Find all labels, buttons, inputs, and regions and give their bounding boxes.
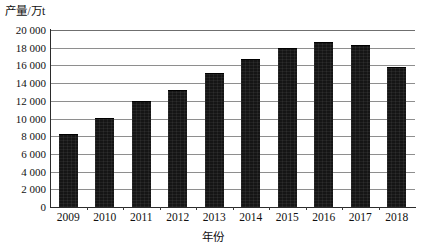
y-axis-tick-label: 14 000 <box>16 77 46 89</box>
bar <box>351 45 370 207</box>
x-axis-title: 年份 <box>0 228 427 244</box>
plot-area <box>50 30 415 207</box>
x-axis-tick <box>379 207 380 210</box>
x-axis-tick <box>233 207 234 210</box>
x-axis-tick-label: 2010 <box>93 211 116 223</box>
y-axis-tick-label: 4 000 <box>21 166 46 178</box>
x-axis-tick <box>269 207 270 210</box>
bar <box>132 101 151 207</box>
y-axis-tick-label: 0 <box>41 201 47 213</box>
bar-chart-figure: 产量/万t 02 0004 0006 0008 00010 00012 0001… <box>0 0 427 250</box>
bar <box>241 59 260 207</box>
y-axis-tick-label: 12 000 <box>16 95 46 107</box>
x-axis-tick <box>87 207 88 210</box>
x-axis-tick <box>196 207 197 210</box>
x-axis-tick-label: 2012 <box>166 211 189 223</box>
x-axis-tick <box>160 207 161 210</box>
x-axis-tick-label: 2013 <box>203 211 226 223</box>
x-axis-tick <box>123 207 124 210</box>
y-axis-tick-label: 10 000 <box>16 113 46 125</box>
x-axis-tick-label: 2018 <box>385 211 408 223</box>
y-axis-line <box>50 29 51 208</box>
bar <box>95 118 114 207</box>
bar <box>59 134 78 207</box>
x-axis-tick <box>306 207 307 210</box>
y-axis-tick-label: 20 000 <box>16 24 46 36</box>
x-axis-tick-label: 2015 <box>276 211 299 223</box>
y-axis-tick-label: 6 000 <box>21 148 46 160</box>
y-axis-tick-label: 8 000 <box>21 130 46 142</box>
x-axis-tick-label: 2014 <box>239 211 262 223</box>
x-axis-tick-label: 2009 <box>57 211 80 223</box>
bar <box>387 67 406 207</box>
x-axis-tick-label: 2016 <box>312 211 335 223</box>
x-axis-tick <box>342 207 343 210</box>
y-axis-tick-label: 2 000 <box>21 183 46 195</box>
bar <box>205 73 224 207</box>
x-axis-tick-label: 2011 <box>130 211 153 223</box>
x-axis-tick-label: 2017 <box>349 211 372 223</box>
gridline <box>50 30 415 31</box>
y-axis-tick-label: 18 000 <box>16 42 46 54</box>
bar <box>278 48 297 207</box>
bar <box>314 42 333 207</box>
bar <box>168 90 187 207</box>
y-axis-tick-labels: 02 0004 0006 0008 00010 00012 00014 0001… <box>0 0 46 250</box>
y-axis-tick-label: 16 000 <box>16 59 46 71</box>
